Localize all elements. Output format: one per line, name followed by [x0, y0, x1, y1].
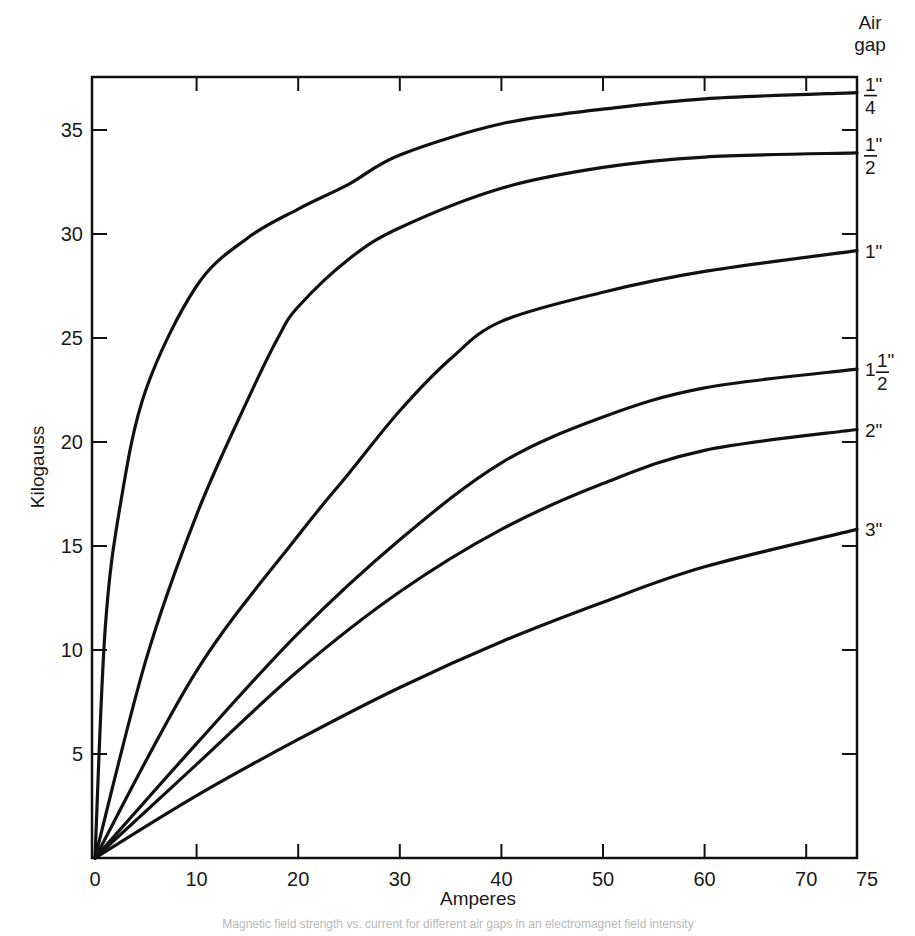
- gap-label-numerator: 1": [865, 134, 882, 155]
- x-tick-label: 60: [693, 868, 715, 890]
- air-gap-label-0: 1"4: [864, 74, 882, 118]
- x-tick-label: 75: [856, 868, 878, 890]
- gap-label-whole: 1": [865, 241, 882, 262]
- air-gap-label-5: 3": [865, 519, 882, 540]
- gap-label-numerator: 1": [877, 350, 894, 371]
- x-tick-label: 10: [185, 868, 207, 890]
- y-tick-label: 10: [61, 639, 83, 661]
- x-tick-label: 50: [592, 868, 614, 890]
- y-tick-label: 20: [61, 431, 83, 453]
- x-tick-label: 40: [490, 868, 512, 890]
- air-gap-label-1: 1"2: [864, 134, 882, 178]
- air-gap-labels: 1"41"21"11"22"3": [864, 74, 894, 541]
- gap-label-whole: 1: [865, 359, 876, 380]
- curves: [95, 93, 857, 858]
- y-tick-label: 25: [61, 327, 83, 349]
- x-axis-title: Amperes: [440, 888, 516, 909]
- y-axis-title: Kilogauss: [27, 426, 48, 508]
- gap-label-whole: 3": [865, 519, 882, 540]
- curve-air-gap-0: [95, 93, 857, 858]
- gap-label-whole: 2": [865, 420, 882, 441]
- x-tick-label: 30: [389, 868, 411, 890]
- x-tick-label: 0: [89, 868, 100, 890]
- gap-label-denominator: 2: [877, 373, 888, 394]
- gap-label-numerator: 1": [865, 74, 882, 95]
- air-gap-label-4: 2": [865, 420, 882, 441]
- x-tick-label: 70: [795, 868, 817, 890]
- curve-air-gap-4: [95, 430, 857, 858]
- magnetization-chart: 010203040506070755101520253035 1"41"21"1…: [0, 0, 915, 936]
- plot-border: [92, 77, 857, 858]
- y-tick-label: 5: [72, 743, 83, 765]
- y-tick-label: 30: [61, 223, 83, 245]
- curve-air-gap-2: [95, 251, 857, 858]
- air-gap-label-2: 1": [865, 241, 882, 262]
- curve-air-gap-5: [95, 529, 857, 858]
- plot-frame: [92, 77, 857, 858]
- gap-label-denominator: 2: [865, 157, 876, 178]
- legend-title-line1: Air: [858, 12, 882, 33]
- y-tick-label: 35: [61, 119, 83, 141]
- x-tick-label: 20: [287, 868, 309, 890]
- figure-caption: Magnetic field strength vs. current for …: [222, 917, 693, 931]
- air-gap-label-3: 11"2: [865, 350, 894, 394]
- y-tick-label: 15: [61, 535, 83, 557]
- gap-label-denominator: 4: [865, 97, 876, 118]
- legend-title-line2: gap: [854, 34, 886, 55]
